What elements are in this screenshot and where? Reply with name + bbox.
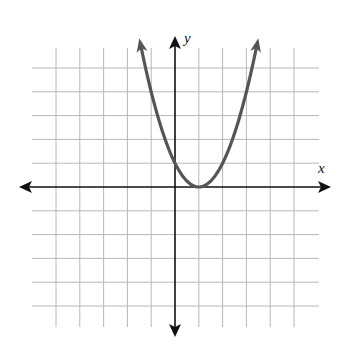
x-axis-label: x [318, 160, 325, 177]
axes [19, 36, 331, 337]
y-axis-label: y [184, 30, 191, 47]
coordinate-plane [0, 0, 343, 346]
